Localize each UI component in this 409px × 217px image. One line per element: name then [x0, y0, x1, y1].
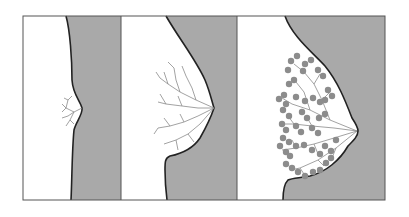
panel-3 [237, 16, 385, 200]
panel-1 [23, 16, 121, 200]
panel-2 [121, 16, 237, 200]
breast-development-figure [0, 0, 409, 217]
